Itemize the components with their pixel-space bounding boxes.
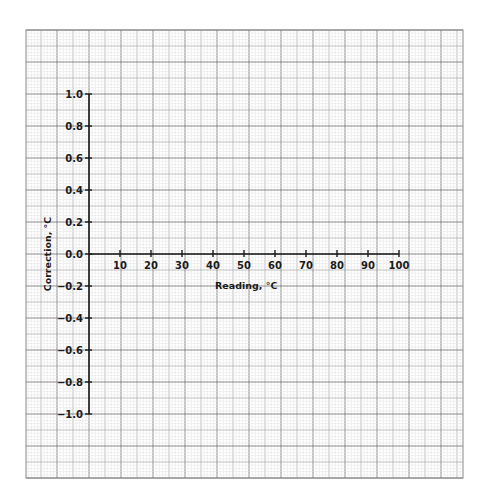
y-tick-label: 0.0 [65,249,83,260]
x-tick-label: 100 [389,260,410,271]
y-tick-label: −1.0 [57,409,83,420]
y-tick-label: −0.4 [57,313,83,324]
x-axis-title: Reading, °C [215,280,277,291]
x-tick-label: 80 [330,260,344,271]
y-tick-label: 0.2 [65,217,83,228]
x-tick-label: 40 [206,260,220,271]
x-tick-label: 20 [144,260,158,271]
x-tick-label: 90 [361,260,375,271]
y-tick-label: 0.8 [65,121,83,132]
x-tick-label: 60 [268,260,282,271]
x-tick-label: 10 [113,260,127,271]
y-tick-label: −0.2 [57,281,83,292]
calibration-chart: 1.00.80.60.40.20.0−0.2−0.4−0.6−0.8−1.0 1… [0,0,485,503]
y-tick-label: 0.6 [65,153,83,164]
y-tick-label: −0.6 [57,345,83,356]
y-tick-label: −0.8 [57,377,83,388]
y-tick-label: 0.4 [65,185,83,196]
x-tick-label: 50 [237,260,251,271]
x-tick-label: 70 [299,260,313,271]
y-tick-label: 1.0 [65,89,83,100]
y-axis-title: Correction, °C [42,217,53,292]
x-tick-label: 30 [175,260,189,271]
